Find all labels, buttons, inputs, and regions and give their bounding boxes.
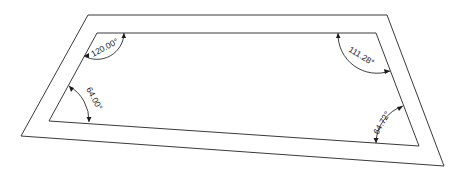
angle-dimension-top-right: 111.28° xyxy=(336,33,390,74)
angle-label-bottom-right: 64.72° xyxy=(371,110,392,136)
angle-dimension-bottom-right: 64.72° xyxy=(371,106,403,143)
angle-dimension-bottom-left: 64.00° xyxy=(69,85,105,122)
angle-diagram: 120.00° 111.28° 64.00° 64.72° xyxy=(0,0,464,177)
